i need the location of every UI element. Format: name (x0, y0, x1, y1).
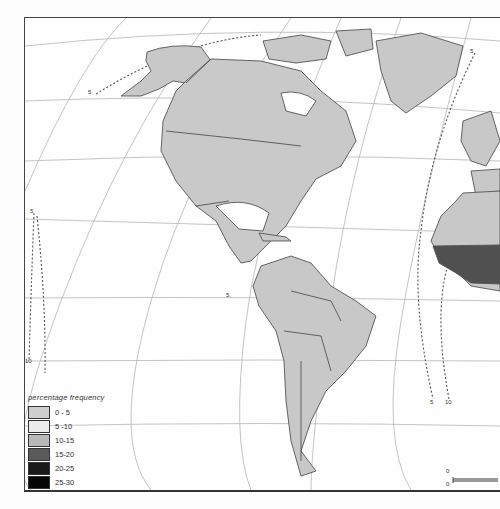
legend-label: 0 - 5 (55, 408, 70, 417)
isoline-label: 10 (25, 358, 32, 364)
legend-item: 0 - 5 (28, 405, 138, 419)
land (121, 29, 500, 476)
legend-label: 10-15 (55, 436, 74, 445)
legend-swatch (28, 434, 50, 447)
isoline-label: 10 (445, 399, 452, 405)
legend-swatch (28, 420, 50, 433)
legend: percentage frequency 0 - 5 5 -10 10-15 1… (28, 393, 138, 489)
scale-label-bottom: 0 (446, 481, 449, 487)
south-america (253, 256, 376, 476)
legend-swatch (28, 448, 50, 461)
greenland (376, 33, 463, 113)
north-america (161, 59, 356, 263)
legend-item: 15-20 (28, 447, 138, 461)
legend-item: 5 -10 (28, 419, 138, 433)
scale-label-top: 0 (446, 468, 449, 474)
legend-swatch (28, 476, 50, 489)
legend-swatch (28, 462, 50, 475)
legend-item: 20-25 (28, 461, 138, 475)
legend-label: 25-30 (55, 478, 74, 487)
isoline-label: 5 (30, 208, 33, 214)
legend-item: 25-30 (28, 475, 138, 489)
legend-item: 10-15 (28, 433, 138, 447)
west-africa-high (433, 245, 500, 284)
legend-label: 15-20 (55, 450, 74, 459)
legend-swatch (28, 406, 50, 419)
isoline-label: 5 (470, 48, 473, 54)
legend-label: 5 -10 (55, 422, 72, 431)
isoline-label: 5 (88, 89, 91, 95)
scale-bar (453, 477, 498, 483)
isoline-label: 5. (226, 292, 231, 298)
legend-title: percentage frequency (28, 393, 138, 402)
isoline-label: 5 (430, 399, 433, 405)
legend-label: 20-25 (55, 464, 74, 473)
